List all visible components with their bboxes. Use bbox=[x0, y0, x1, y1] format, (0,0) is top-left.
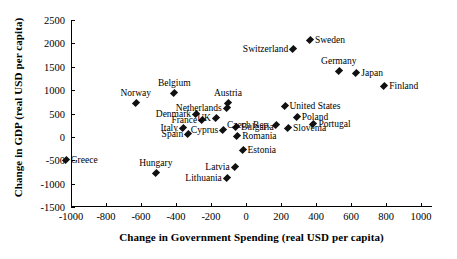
x-tick bbox=[211, 203, 212, 207]
data-point-label: Germany bbox=[321, 56, 356, 66]
x-tick bbox=[421, 203, 422, 207]
data-point-label: Belgium bbox=[158, 78, 191, 88]
data-point-label: Estonia bbox=[248, 145, 277, 155]
x-tick-label: 800 bbox=[378, 211, 394, 222]
y-tick-label: 2500 bbox=[44, 15, 65, 26]
y-tick bbox=[71, 43, 75, 44]
y-tick-label: 1500 bbox=[44, 61, 65, 72]
data-point-label: Netherlands bbox=[176, 103, 222, 113]
x-tick-label: 0 bbox=[243, 211, 248, 222]
x-tick bbox=[246, 203, 247, 207]
data-point-label: Lithuania bbox=[185, 173, 221, 183]
data-point-label: United States bbox=[290, 101, 341, 111]
x-tick-label: 600 bbox=[343, 211, 359, 222]
x-tick bbox=[386, 203, 387, 207]
y-tick bbox=[71, 90, 75, 91]
y-tick-label: 0 bbox=[60, 131, 65, 142]
x-tick-label: -800 bbox=[96, 211, 115, 222]
data-point-label: Hungary bbox=[139, 158, 172, 168]
x-tick-label: 400 bbox=[308, 211, 324, 222]
data-point-label: Japan bbox=[361, 68, 383, 78]
x-tick bbox=[316, 203, 317, 207]
x-tick bbox=[351, 203, 352, 207]
y-tick-label: 2000 bbox=[44, 38, 65, 49]
data-point-label: Czech Rep. bbox=[227, 120, 271, 130]
y-tick-label: 500 bbox=[49, 108, 65, 119]
y-tick-label: 1000 bbox=[44, 85, 65, 96]
x-tick-label: -1000 bbox=[59, 211, 84, 222]
x-tick bbox=[281, 203, 282, 207]
x-tick bbox=[106, 203, 107, 207]
y-tick bbox=[71, 67, 75, 68]
y-tick bbox=[71, 20, 75, 21]
y-tick bbox=[71, 184, 75, 185]
data-point-label: Sweden bbox=[315, 35, 345, 45]
data-point-label: Finland bbox=[389, 81, 418, 91]
y-tick bbox=[71, 137, 75, 138]
y-axis-title: Change in GDP (real USD per capita) bbox=[12, 14, 24, 201]
x-tick-label: 200 bbox=[273, 211, 289, 222]
data-point-label: Austria bbox=[214, 88, 242, 98]
data-point-label: Cyprus bbox=[191, 125, 218, 135]
x-tick-label: -200 bbox=[201, 211, 220, 222]
x-tick bbox=[141, 203, 142, 207]
data-point-label: France bbox=[171, 115, 197, 125]
x-axis-title: Change in Government Spending (real USD … bbox=[71, 231, 432, 243]
data-point-label: Greece bbox=[71, 155, 98, 165]
data-point-label: Portugal bbox=[318, 119, 350, 129]
y-tick bbox=[71, 114, 75, 115]
y-tick-label: -1500 bbox=[41, 202, 66, 213]
x-tick-label: -400 bbox=[166, 211, 185, 222]
x-tick bbox=[176, 203, 177, 207]
y-tick bbox=[71, 207, 75, 208]
y-tick-label: -1000 bbox=[41, 178, 66, 189]
x-tick-label: -600 bbox=[131, 211, 150, 222]
data-point-label: Romania bbox=[242, 131, 276, 141]
x-tick-label: 1000 bbox=[411, 211, 432, 222]
data-point-label: Spain bbox=[162, 129, 184, 139]
data-point-label: UK bbox=[197, 113, 211, 123]
data-point-label: Norway bbox=[120, 88, 151, 98]
data-point-label: Switzerland bbox=[243, 44, 288, 54]
data-point-label: Latvia bbox=[205, 162, 229, 172]
scatter-chart: -1000-800-600-400-20002004006008001000 -… bbox=[0, 0, 457, 259]
